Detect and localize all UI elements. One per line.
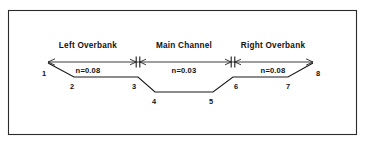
section-title-main-channel: Main Channel <box>156 41 212 50</box>
cross-section-diagram: Left Overbank Main Channel Right Overban… <box>0 0 365 142</box>
figure-root: Left Overbank Main Channel Right Overban… <box>0 0 365 142</box>
station-point-label-2: 2 <box>70 82 74 91</box>
station-point-label-6: 6 <box>234 82 238 91</box>
roughness-label-left-overbank: n=0.08 <box>76 66 101 75</box>
station-point-label-5: 5 <box>209 97 213 106</box>
section-title-left-overbank: Left Overbank <box>59 41 118 50</box>
roughness-label-main-channel: n=0.03 <box>172 66 197 75</box>
section-title-right-overbank: Right Overbank <box>241 41 306 50</box>
station-point-label-1: 1 <box>42 69 46 78</box>
station-point-label-3: 3 <box>132 82 136 91</box>
roughness-label-right-overbank: n=0.08 <box>261 66 286 75</box>
station-point-label-8: 8 <box>316 69 320 78</box>
station-point-label-7: 7 <box>286 82 290 91</box>
